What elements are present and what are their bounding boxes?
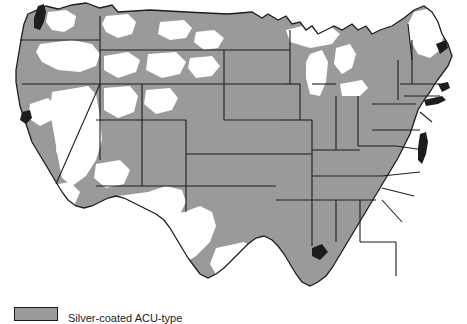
chesapeake-bay (418, 132, 428, 164)
border-ga-sc (382, 200, 402, 222)
legend-swatch-covered (14, 307, 58, 321)
white-region-south-florida (394, 268, 420, 294)
white-region-south-texas (210, 242, 262, 286)
border-sc-nc (382, 188, 414, 196)
long-island (424, 96, 446, 106)
us-choropleth-map (0, 0, 467, 300)
legend-label-covered: Silver-coated ACU-type (68, 312, 182, 324)
map-legend: Silver-coated ACU-type (0, 303, 467, 323)
border-nj-line (420, 112, 432, 122)
